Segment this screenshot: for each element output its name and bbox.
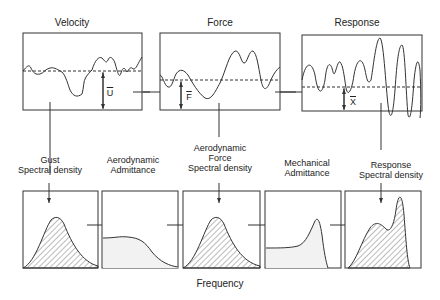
response-spectrum-label: Response Spectral density (355, 160, 427, 180)
mean-force-symbol: F (183, 92, 195, 102)
frequency-axis-label: Frequency (190, 279, 250, 289)
mean-velocity-symbol: U (104, 88, 116, 98)
mech-admittance-label: Mechanical Admittance (277, 158, 337, 178)
gust-spectrum-plot (23, 183, 98, 268)
force-spectrum-label: Aerodynamic Force Spectral density (180, 143, 260, 173)
force-title: Force (190, 18, 250, 28)
aero-admittance-label: Aerodynamic Admittance (99, 155, 167, 175)
mean-response-symbol: X (347, 97, 359, 107)
response-plot (302, 35, 422, 150)
response-title: Response (322, 18, 392, 28)
force-plot (160, 33, 296, 137)
velocity-title: Velocity (42, 18, 102, 28)
velocity-plot (23, 33, 150, 175)
response-spectrum-plot (345, 183, 421, 268)
aero-admittance-plot (102, 191, 178, 268)
mech-admittance-plot (265, 191, 341, 268)
gust-spectrum-label: Gust Spectral density (14, 155, 86, 175)
